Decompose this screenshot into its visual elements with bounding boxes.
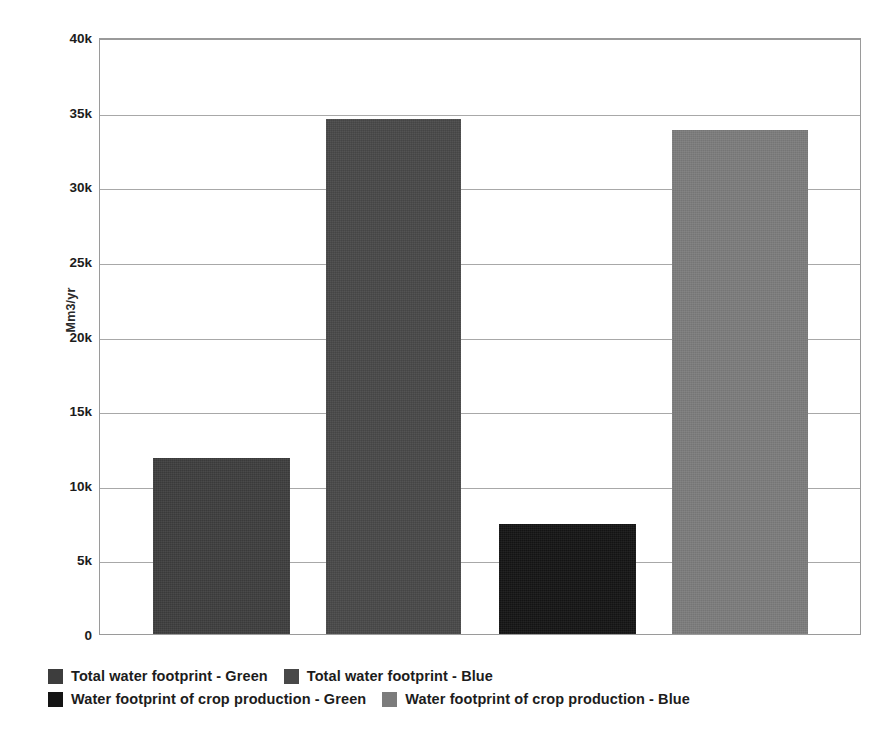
bar[interactable] xyxy=(153,458,290,634)
legend-label: Total water footprint - Green xyxy=(71,668,268,684)
bar-chart-figure: Mm3/yr 05k10k15k20k25k30k35k40k Total wa… xyxy=(0,0,881,741)
legend-row: Water footprint of crop production - Gre… xyxy=(48,691,858,707)
legend-label: Total water footprint - Blue xyxy=(307,668,493,684)
bar[interactable] xyxy=(672,130,808,634)
legend-item[interactable]: Water footprint of crop production - Blu… xyxy=(382,691,690,707)
legend-item[interactable]: Water footprint of crop production - Gre… xyxy=(48,691,366,707)
y-tick-label: 5k xyxy=(4,553,92,568)
legend-label: Water footprint of crop production - Gre… xyxy=(71,691,366,707)
legend-swatch-icon xyxy=(284,669,299,684)
y-tick-label: 15k xyxy=(4,404,92,419)
legend-swatch-icon xyxy=(48,692,63,707)
bars-group xyxy=(100,40,860,634)
y-tick-label: 40k xyxy=(4,31,92,46)
legend-item[interactable]: Total water footprint - Green xyxy=(48,668,268,684)
bar[interactable] xyxy=(499,524,636,634)
legend-label: Water footprint of crop production - Blu… xyxy=(405,691,690,707)
y-tick-label: 20k xyxy=(4,329,92,344)
plot-area xyxy=(99,38,861,635)
chart-legend: Total water footprint - GreenTotal water… xyxy=(48,668,858,714)
bar[interactable] xyxy=(326,119,461,634)
legend-row: Total water footprint - GreenTotal water… xyxy=(48,668,858,684)
legend-item[interactable]: Total water footprint - Blue xyxy=(284,668,493,684)
y-tick-label: 10k xyxy=(4,478,92,493)
y-tick-label: 25k xyxy=(4,254,92,269)
y-tick-label: 0 xyxy=(4,628,92,643)
y-tick-label: 30k xyxy=(4,180,92,195)
legend-swatch-icon xyxy=(382,692,397,707)
y-axis-tick-labels: 05k10k15k20k25k30k35k40k xyxy=(0,0,92,680)
y-tick-label: 35k xyxy=(4,105,92,120)
legend-swatch-icon xyxy=(48,669,63,684)
